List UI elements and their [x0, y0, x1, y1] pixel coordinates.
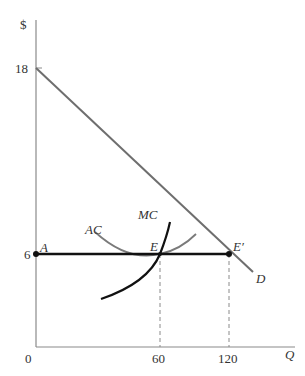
x-tick-label-120: 120	[218, 352, 238, 365]
demand-curve	[36, 68, 253, 272]
economics-diagram	[0, 0, 305, 376]
y-tick-label-6: 6	[24, 248, 31, 261]
demand-label: D	[256, 272, 265, 285]
point-a-label: A	[40, 241, 48, 254]
point-a-dot	[33, 251, 39, 257]
point-e-label: E	[150, 240, 158, 253]
x-axis-label: Q	[285, 348, 294, 361]
ac-label: AC	[85, 223, 102, 236]
y-axis-label: $	[20, 18, 27, 31]
ac-curve	[95, 232, 196, 256]
point-e-prime-label: E′	[233, 240, 244, 253]
mc-label: MC	[138, 208, 158, 221]
point-e-prime-dot	[226, 251, 232, 257]
mc-curve-upper	[101, 222, 170, 299]
origin-label: 0	[25, 352, 32, 365]
x-tick-label-60: 60	[152, 352, 165, 365]
y-tick-label-18: 18	[15, 62, 28, 75]
point-e-dot	[158, 252, 162, 256]
